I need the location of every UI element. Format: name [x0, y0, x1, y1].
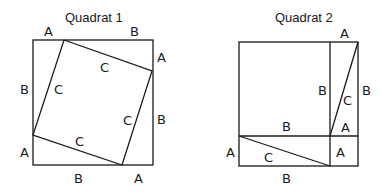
label-inner-vertical: B — [318, 83, 327, 98]
label-inner-right: C — [123, 113, 132, 128]
diagonal-lower — [239, 136, 330, 166]
label-bottom-right: A — [134, 171, 143, 186]
label-left-bottom: A — [20, 145, 29, 160]
label-right-bottom: B — [157, 112, 166, 127]
label-diagonal-lower: C — [264, 150, 273, 165]
label-right: B — [362, 83, 371, 98]
pythagoras-diagram: Quadrat 1 A B A B B A B A C C C C Quadra… — [0, 0, 383, 193]
quadrat-2-title: Quadrat 2 — [275, 10, 333, 25]
label-corner-a: A — [336, 145, 345, 160]
label-top-left: A — [44, 24, 53, 39]
label-right-top: A — [157, 50, 166, 65]
label-inner-bottom: C — [75, 134, 84, 149]
label-left-bottom: A — [226, 145, 235, 160]
quadrat-2: Quadrat 2 A B B C A B A C A B — [226, 10, 371, 186]
quadrat-1: Quadrat 1 A B A B B A B A C C C C — [20, 10, 166, 186]
label-top-right: B — [130, 24, 139, 39]
label-bottom-left: B — [74, 171, 83, 186]
label-inner-left: C — [54, 82, 63, 97]
label-bottom: B — [282, 171, 291, 186]
label-left-top: B — [20, 82, 29, 97]
label-diagonal-upper: C — [343, 93, 352, 108]
label-middle-horizontal: B — [282, 119, 291, 134]
label-strip-a: A — [341, 120, 350, 135]
outer-square-1 — [33, 40, 153, 165]
quadrat-1-title: Quadrat 1 — [65, 10, 123, 25]
inner-square-c — [33, 40, 152, 165]
label-top-right: A — [340, 26, 349, 41]
label-inner-top: C — [100, 60, 109, 75]
